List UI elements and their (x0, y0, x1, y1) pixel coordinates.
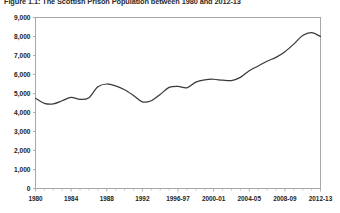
x-axis-tick-label: 2004-05 (238, 195, 262, 202)
line-chart: 01,0002,0003,0004,0005,0006,0007,0008,00… (0, 0, 340, 213)
x-axis-tick-labels: 19801984198819921996-972000-012004-05200… (28, 195, 332, 202)
x-axis-tick-label: 1996-97 (166, 195, 190, 202)
y-axis-tick-label: 6,000 (14, 71, 31, 79)
y-axis-tick-label: 8,000 (14, 33, 31, 41)
x-axis-tick-label: 2000-01 (202, 195, 226, 202)
y-axis-tick-label: 9,000 (14, 14, 31, 22)
x-axis-tick-label: 1992 (135, 195, 150, 202)
y-axis-tick-label: 5,000 (14, 90, 31, 98)
plot-area-border (36, 18, 321, 189)
data-series-line (36, 33, 321, 105)
y-axis-tick-label: 2,000 (14, 147, 31, 155)
y-axis-tick-label: 7,000 (14, 52, 31, 60)
y-axis-tick-label: 3,000 (14, 128, 31, 136)
figure-container: Figure 1.1: The Scottish Prison Populati… (0, 0, 340, 213)
x-axis-tick-label: 2012-13 (309, 195, 333, 202)
x-axis-tick-label: 1984 (64, 195, 79, 202)
x-axis-tick-label: 1988 (100, 195, 115, 202)
y-axis-tick-label: 0 (27, 185, 31, 192)
y-axis-tick-label: 4,000 (14, 109, 31, 117)
x-axis-tick-label: 2008-09 (273, 195, 297, 202)
plot-frame (36, 18, 321, 189)
chart-svg: 01,0002,0003,0004,0005,0006,0007,0008,00… (0, 0, 340, 213)
x-axis-tick-label: 1980 (28, 195, 43, 202)
y-axis-tick-labels: 01,0002,0003,0004,0005,0006,0007,0008,00… (14, 14, 31, 192)
y-axis-tick-label: 1,000 (14, 166, 31, 174)
